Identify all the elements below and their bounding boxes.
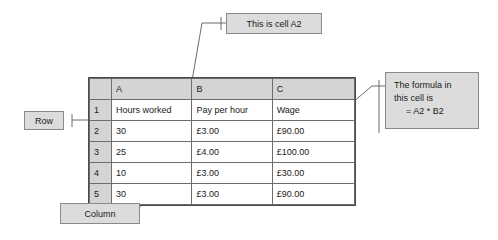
cell-c3[interactable]: £100.00 <box>272 142 354 163</box>
callout-formula-line-3: = A2 * B2 <box>394 105 478 118</box>
column-header-b[interactable]: B <box>192 79 272 100</box>
spreadsheet-table: A B C 1 Hours worked Pay per hour Wage 2… <box>89 78 355 205</box>
callout-row-text: Row <box>25 115 63 128</box>
cell-c1[interactable]: Wage <box>272 100 354 121</box>
cell-b2[interactable]: £3.00 <box>192 121 272 142</box>
diagram-canvas: A B C 1 Hours worked Pay per hour Wage 2… <box>0 0 498 240</box>
cell-c4[interactable]: £30.00 <box>272 163 354 184</box>
row-header-4[interactable]: 4 <box>90 163 112 184</box>
table-row: 1 Hours worked Pay per hour Wage <box>90 100 355 121</box>
column-header-row: A B C <box>90 79 355 100</box>
cell-a4[interactable]: 10 <box>112 163 192 184</box>
cell-a3[interactable]: 25 <box>112 142 192 163</box>
callout-formula-line-2: this cell is <box>394 92 478 105</box>
cell-b4[interactable]: £3.00 <box>192 163 272 184</box>
cell-a2[interactable]: 30 <box>112 121 192 142</box>
cell-b1[interactable]: Pay per hour <box>192 100 272 121</box>
select-all-corner[interactable] <box>90 79 112 100</box>
column-header-a[interactable]: A <box>112 79 192 100</box>
callout-column: Column <box>60 203 140 224</box>
callout-formula: The formula in this cell is = A2 * B2 <box>385 72 479 129</box>
table-row: 3 25 £4.00 £100.00 <box>90 142 355 163</box>
cell-c2[interactable]: £90.00 <box>272 121 354 142</box>
row-header-5[interactable]: 5 <box>90 184 112 205</box>
cell-b5[interactable]: £3.00 <box>192 184 272 205</box>
table-row: 2 30 £3.00 £90.00 <box>90 121 355 142</box>
row-header-3[interactable]: 3 <box>90 142 112 163</box>
cell-c5[interactable]: £90.00 <box>272 184 354 205</box>
callout-cell-a2: This is cell A2 <box>226 13 322 34</box>
table-row: 5 30 £3.00 £90.00 <box>90 184 355 205</box>
cell-b3[interactable]: £4.00 <box>192 142 272 163</box>
callout-column-text: Column <box>61 208 139 221</box>
column-header-c[interactable]: C <box>272 79 354 100</box>
callout-formula-line-1: The formula in <box>394 79 478 92</box>
callout-cell-a2-text: This is cell A2 <box>227 18 321 31</box>
row-header-2[interactable]: 2 <box>90 121 112 142</box>
spreadsheet-grid[interactable]: A B C 1 Hours worked Pay per hour Wage 2… <box>88 77 356 206</box>
table-row: 4 10 £3.00 £30.00 <box>90 163 355 184</box>
row-header-1[interactable]: 1 <box>90 100 112 121</box>
cell-a5[interactable]: 30 <box>112 184 192 205</box>
callout-row: Row <box>24 111 64 130</box>
cell-a1[interactable]: Hours worked <box>112 100 192 121</box>
